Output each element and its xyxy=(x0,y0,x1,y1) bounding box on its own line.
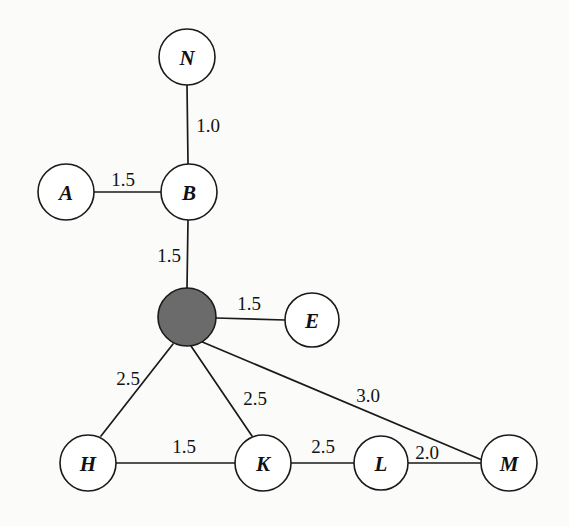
edge-weight-label-n-b: 1.0 xyxy=(196,115,220,136)
node-label-b: B xyxy=(181,181,196,205)
graph-edge-n-b xyxy=(187,85,188,164)
edges-layer xyxy=(94,85,482,463)
graph-node-k[interactable]: K xyxy=(235,435,291,491)
edge-weight-label-s-m: 3.0 xyxy=(356,385,380,406)
graph-node-e[interactable]: E xyxy=(285,293,339,347)
graph-edge-s-h xyxy=(101,344,173,436)
edge-weight-label-s-e: 1.5 xyxy=(237,293,261,314)
graph-edge-b-s xyxy=(187,220,188,288)
graph-node-n[interactable]: N xyxy=(159,29,215,85)
node-label-m: M xyxy=(499,452,520,476)
edge-weight-label-l-m: 2.0 xyxy=(415,442,439,463)
edge-weight-label-h-k: 1.5 xyxy=(172,436,196,457)
node-label-k: K xyxy=(255,452,272,476)
graph-node-l[interactable]: L xyxy=(354,436,408,490)
node-label-l: L xyxy=(374,452,388,476)
graph-node-a[interactable]: A xyxy=(38,164,94,220)
weighted-graph-figure: NABEHKLM 1.01.51.51.52.52.53.01.52.52.0 xyxy=(0,0,569,526)
edge-weight-label-b-s: 1.5 xyxy=(157,245,181,266)
edge-weight-label-s-h: 2.5 xyxy=(116,368,140,389)
node-label-a: A xyxy=(57,181,73,205)
edge-weight-label-k-l: 2.5 xyxy=(311,436,335,457)
node-circle-filled xyxy=(158,288,216,346)
edge-weight-label-s-k: 2.5 xyxy=(243,388,267,409)
graph-node-h[interactable]: H xyxy=(60,435,116,491)
graph-edge-s-e xyxy=(216,318,285,320)
graph-node-b[interactable]: B xyxy=(161,164,217,220)
node-label-e: E xyxy=(304,309,319,333)
node-label-n: N xyxy=(178,46,195,70)
node-label-h: H xyxy=(79,452,97,476)
graph-node-source-highlighted[interactable] xyxy=(158,288,216,346)
graph-diagram-canvas: NABEHKLM 1.01.51.51.52.52.53.01.52.52.0 xyxy=(0,0,569,526)
edge-weight-label-a-b: 1.5 xyxy=(111,169,135,190)
graph-node-m[interactable]: M xyxy=(481,435,537,491)
edge-labels-layer: 1.01.51.51.52.52.53.01.52.52.0 xyxy=(111,115,439,463)
